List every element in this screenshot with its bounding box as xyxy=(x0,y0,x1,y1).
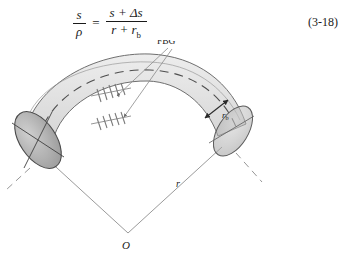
equation-expression: s ρ = s + Δs r + rb xyxy=(70,6,149,40)
equation-right-denominator: r + rb xyxy=(107,22,145,40)
equation-right-denominator-main: r + r xyxy=(111,22,136,37)
radius-line-right xyxy=(128,147,222,233)
figure-page: s ρ = s + Δs r + rb (3-18) xyxy=(0,0,350,260)
center-point-label: O xyxy=(122,239,130,251)
equation-right-numerator: s + Δs xyxy=(106,6,147,22)
equation-left-numerator: s xyxy=(73,8,86,24)
tangent-line-right xyxy=(236,153,262,182)
radius-label: r xyxy=(176,178,180,189)
tube-outer-band xyxy=(24,54,246,144)
equation-right-denominator-subscript: b xyxy=(137,30,141,40)
equation-equals-sign: = xyxy=(92,15,99,31)
equation-left-fraction: s ρ xyxy=(72,8,86,39)
tangent-line-left xyxy=(6,168,30,190)
equation-right-fraction: s + Δs r + rb xyxy=(106,6,147,40)
curved-tube-svg: rb FBG r O xyxy=(0,40,350,260)
fbg-label: FBG xyxy=(157,40,176,46)
equation-left-denominator: ρ xyxy=(72,24,86,39)
diagram-canvas: rb FBG r O xyxy=(0,40,350,260)
fbg-grating-inner xyxy=(91,112,131,130)
equation-number: (3-18) xyxy=(308,15,338,30)
tube-radius-label-sub: b xyxy=(226,114,229,121)
curved-tube-body xyxy=(24,54,246,144)
equation-row: s ρ = s + Δs r + rb (3-18) xyxy=(0,6,350,40)
